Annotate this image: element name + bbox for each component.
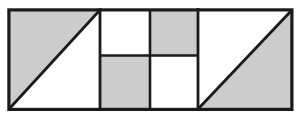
middle-cell-bottom-right xyxy=(150,56,197,109)
left-square-group xyxy=(10,11,99,108)
right-square-group xyxy=(199,11,291,108)
middle-cell-top-right xyxy=(150,11,197,56)
middle-cell-top-left xyxy=(101,11,150,56)
middle-cell-bottom-left xyxy=(101,56,150,109)
middle-checkerboard-group xyxy=(101,11,198,108)
geometric-figure xyxy=(0,0,300,124)
figure-container: Rectangle divided into shaded and unshad… xyxy=(0,0,300,124)
